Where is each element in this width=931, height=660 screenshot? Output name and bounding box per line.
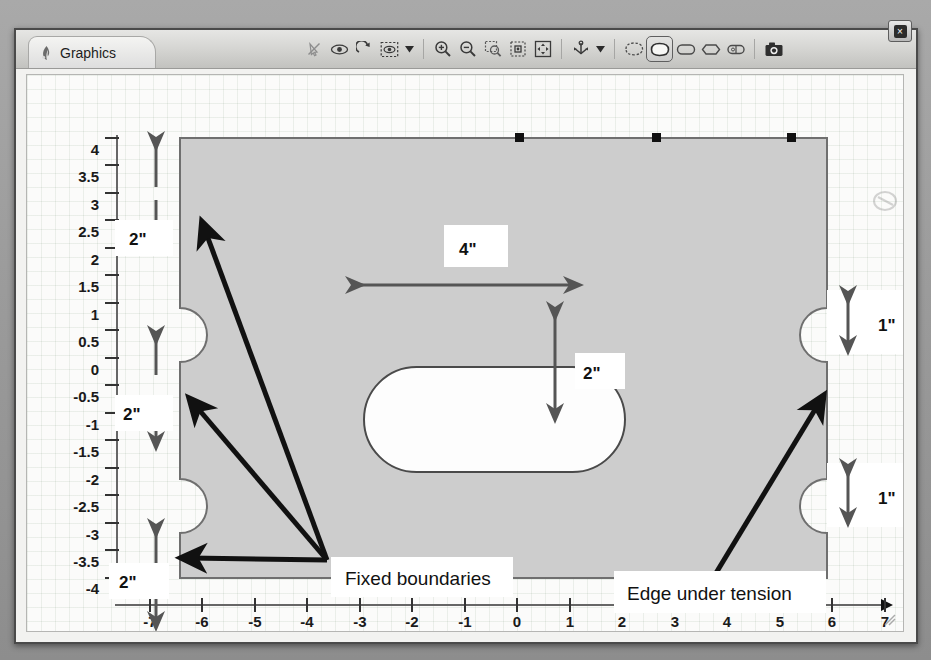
zoom-out-icon[interactable] bbox=[455, 37, 480, 61]
toolbar-separator-2 bbox=[561, 39, 562, 59]
y-tick-label: -0.5 bbox=[73, 388, 99, 405]
x-axis-arrow-icon bbox=[881, 599, 893, 611]
toolbar-separator-4 bbox=[754, 39, 755, 59]
zoom-in-icon[interactable] bbox=[430, 37, 455, 61]
toolbar-separator-3 bbox=[614, 39, 615, 59]
callout-fixed-boundaries-label: Fixed boundaries bbox=[345, 568, 491, 589]
selection-handle[interactable] bbox=[787, 133, 796, 142]
x-tick-label: 1 bbox=[566, 613, 574, 630]
rotate-widget-icon[interactable] bbox=[874, 192, 896, 210]
x-tick-label: -3 bbox=[353, 613, 366, 630]
y-tick-label: -1.5 bbox=[73, 443, 99, 460]
y-tick-label: 1 bbox=[91, 306, 99, 323]
pan-icon[interactable] bbox=[530, 37, 555, 61]
toolbar-separator-1 bbox=[423, 39, 424, 59]
graphics-window: Graphics bbox=[14, 28, 918, 644]
dim-left-middle-label: 2" bbox=[123, 405, 141, 424]
x-tick-label: -5 bbox=[248, 613, 261, 630]
dim-hole-width-label: 4" bbox=[459, 240, 477, 259]
x-tick-label: 5 bbox=[776, 613, 784, 630]
geometry-plot: 4 3.5 3 2.5 2 1.5 1 0.5 0 -0.5 -1 -1.5 -… bbox=[27, 75, 903, 631]
y-tick-label: 2 bbox=[91, 251, 99, 268]
callout-edge-under-tension: Edge under tension bbox=[614, 571, 826, 613]
mathematica-leaf-icon bbox=[40, 46, 53, 60]
y-tick-label: -2 bbox=[86, 471, 99, 488]
y-tick-label: -3 bbox=[86, 526, 99, 543]
marquee-eye-icon[interactable] bbox=[377, 37, 402, 61]
resize-corner-icon[interactable] bbox=[883, 613, 897, 627]
dim-right-bottom: 1" bbox=[827, 463, 903, 527]
y-tick-label: 0.5 bbox=[78, 333, 99, 350]
shape-rounded-rect-icon[interactable] bbox=[646, 36, 673, 62]
callout-fixed-boundaries: Fixed boundaries bbox=[331, 557, 513, 597]
y-tick-label: -3.5 bbox=[73, 553, 99, 570]
dim-right-bottom-label: 1" bbox=[878, 489, 896, 508]
x-tick-label: 4 bbox=[723, 613, 732, 630]
dropdown-caret-icon[interactable] bbox=[593, 37, 608, 61]
tab-graphics-label: Graphics bbox=[60, 45, 116, 61]
y-axis-labels: 4 3.5 3 2.5 2 1.5 1 0.5 0 -0.5 -1 -1.5 -… bbox=[73, 141, 100, 597]
x-tick-label: -1 bbox=[458, 613, 471, 630]
x-tick-label: -2 bbox=[405, 613, 418, 630]
y-tick-label: 2.5 bbox=[78, 223, 99, 240]
pointer-disabled-icon[interactable] bbox=[302, 37, 327, 61]
dim-left-top-label: 2" bbox=[129, 230, 147, 249]
dim-left-middle: 2" bbox=[115, 337, 173, 443]
zoom-fit-icon[interactable] bbox=[505, 37, 530, 61]
y-tick-label: 3 bbox=[91, 196, 99, 213]
selection-handle[interactable] bbox=[515, 133, 524, 142]
x-tick-label: 3 bbox=[671, 613, 679, 630]
window-title-bar: Graphics bbox=[16, 30, 916, 69]
dim-right-top-label: 1" bbox=[878, 316, 896, 335]
graphics-canvas[interactable]: 4 3.5 3 2.5 2 1.5 1 0.5 0 -0.5 -1 -1.5 -… bbox=[26, 74, 904, 632]
y-tick-label: 1.5 bbox=[78, 278, 99, 295]
dim-hole-height-label: 2" bbox=[583, 364, 601, 383]
tab-graphics[interactable]: Graphics bbox=[28, 36, 156, 68]
x-axis-labels: -7 -6 -5 -4 -3 -2 -1 0 1 2 3 4 5 6 7 bbox=[143, 613, 889, 630]
eye-icon[interactable] bbox=[327, 37, 352, 61]
anchor-icon[interactable] bbox=[568, 37, 593, 61]
shape-freeform-icon[interactable] bbox=[621, 37, 646, 61]
shape-capsule-split-icon[interactable] bbox=[723, 37, 748, 61]
x-tick-label: -6 bbox=[195, 613, 208, 630]
close-button[interactable]: × bbox=[888, 20, 912, 42]
dim-left-top: 2" bbox=[115, 143, 173, 256]
y-tick-label: 0 bbox=[91, 361, 99, 378]
y-tick-label: 3.5 bbox=[78, 168, 99, 185]
x-tick-label: 6 bbox=[828, 613, 836, 630]
camera-icon[interactable] bbox=[761, 37, 786, 61]
callout-edge-under-tension-label: Edge under tension bbox=[627, 583, 792, 604]
shape-stadium-icon[interactable] bbox=[673, 37, 698, 61]
shape-hexagon-icon[interactable] bbox=[698, 37, 723, 61]
close-icon: × bbox=[894, 25, 907, 38]
x-tick-label: 2 bbox=[618, 613, 626, 630]
x-tick-label: 0 bbox=[513, 613, 521, 630]
y-tick-label: 4 bbox=[91, 141, 100, 158]
dim-left-bottom-label: 2" bbox=[119, 573, 137, 592]
selection-handle[interactable] bbox=[652, 133, 661, 142]
toolbar bbox=[302, 34, 786, 64]
y-tick-label: -1 bbox=[86, 416, 99, 433]
zoom-region-icon[interactable] bbox=[480, 37, 505, 61]
x-tick-label: -4 bbox=[300, 613, 314, 630]
y-tick-label: -2.5 bbox=[73, 498, 99, 515]
redo-arrow-icon[interactable] bbox=[352, 37, 377, 61]
dim-right-top: 1" bbox=[827, 290, 903, 354]
plate-geometry[interactable] bbox=[180, 138, 827, 578]
screenshot-root: × Graphics bbox=[0, 0, 931, 660]
y-tick-label: -4 bbox=[86, 580, 100, 597]
dropdown-caret-icon[interactable] bbox=[402, 37, 417, 61]
